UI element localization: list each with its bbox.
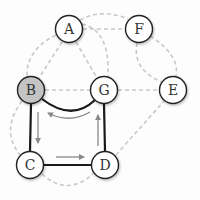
node-c[interactable]: C xyxy=(17,152,44,179)
nodes: A F B G E C D xyxy=(17,16,187,179)
arrow-g-to-b xyxy=(48,112,90,118)
node-c-label: C xyxy=(25,157,36,173)
solid-edges xyxy=(30,99,105,165)
node-a-label: A xyxy=(63,21,75,37)
edge-a-g-arc xyxy=(82,24,108,76)
edge-a-g xyxy=(76,42,97,78)
node-e[interactable]: E xyxy=(160,77,187,104)
edge-f-e-outer xyxy=(150,36,176,76)
edge-b-g-curve xyxy=(42,99,95,111)
edge-b-c-arc xyxy=(10,101,22,155)
graph-svg: A F B G E C D xyxy=(0,0,200,200)
edge-a-b-arc xyxy=(27,35,56,76)
node-b[interactable]: B xyxy=(18,77,45,104)
node-f-label: F xyxy=(134,21,144,37)
cycle-arrows xyxy=(38,112,98,157)
edge-d-e xyxy=(116,101,164,155)
node-d[interactable]: D xyxy=(92,152,119,179)
edge-a-b xyxy=(39,42,62,78)
node-d-label: D xyxy=(99,157,110,173)
node-b-label: B xyxy=(26,82,36,98)
node-g-label: G xyxy=(98,82,109,98)
node-f[interactable]: F xyxy=(126,16,153,43)
node-a[interactable]: A xyxy=(56,16,83,43)
edge-f-e-inner xyxy=(136,43,162,82)
edge-c-d-arc xyxy=(42,174,93,186)
edge-d-g xyxy=(104,104,105,151)
edge-a-f-arc xyxy=(80,14,128,20)
graph-diagram: A F B G E C D xyxy=(0,0,200,200)
node-e-label: E xyxy=(168,82,178,98)
edge-b-c xyxy=(30,104,31,151)
node-g[interactable]: G xyxy=(91,77,118,104)
